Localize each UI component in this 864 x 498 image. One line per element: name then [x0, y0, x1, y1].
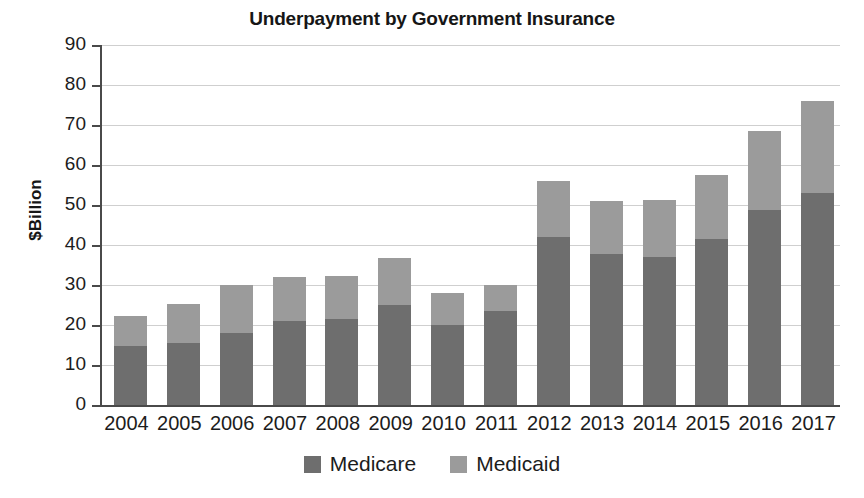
- y-axis-tick: [92, 45, 101, 47]
- y-axis-tick-label: 10: [46, 353, 86, 375]
- bar-segment-medicaid: [220, 285, 253, 333]
- bar-segment-medicare: [643, 257, 676, 405]
- bar-stack: [431, 45, 464, 405]
- legend-swatch-medicare: [304, 456, 321, 473]
- x-axis-tick-label: 2008: [315, 412, 360, 435]
- x-axis-tick-label: 2014: [633, 412, 678, 435]
- gridline: [100, 285, 840, 286]
- bar-stack: [220, 45, 253, 405]
- y-axis-tick: [92, 325, 101, 327]
- x-axis-tick-label: 2016: [738, 412, 783, 435]
- bar-stack: [325, 45, 358, 405]
- y-axis-title: $Billion: [26, 150, 46, 270]
- bar-segment-medicare: [431, 325, 464, 405]
- x-axis-tick-label: 2015: [685, 412, 730, 435]
- bar-stack: [537, 45, 570, 405]
- gridline: [100, 365, 840, 366]
- bar-segment-medicare: [167, 343, 200, 405]
- y-axis-tick-label: 50: [46, 193, 86, 215]
- bar-stack: [378, 45, 411, 405]
- chart-title: Underpayment by Government Insurance: [0, 8, 864, 30]
- x-axis-tick-label: 2009: [368, 412, 413, 435]
- gridline: [100, 165, 840, 166]
- gridline: [100, 85, 840, 86]
- y-axis-tick-label: 70: [46, 113, 86, 135]
- y-axis-tick: [92, 125, 101, 127]
- y-axis-tick: [92, 205, 101, 207]
- x-axis-tick-label: 2004: [104, 412, 149, 435]
- x-axis-tick-label: 2011: [474, 412, 519, 435]
- chart-legend: MedicareMedicaid: [0, 452, 864, 476]
- x-axis-tick-label: 2013: [580, 412, 625, 435]
- gridline: [100, 325, 840, 326]
- legend-item[interactable]: Medicaid: [450, 452, 560, 476]
- y-axis-tick: [92, 365, 101, 367]
- y-axis-line: [100, 45, 102, 406]
- x-axis-tick-label: 2005: [157, 412, 202, 435]
- bar-segment-medicaid: [748, 131, 781, 210]
- plot-area: [100, 45, 840, 405]
- bar-stack: [801, 45, 834, 405]
- y-axis-tick: [92, 85, 101, 87]
- bar-segment-medicaid: [431, 293, 464, 325]
- bar-segment-medicare: [220, 333, 253, 405]
- gridline: [100, 205, 840, 206]
- bar-segment-medicare: [695, 239, 728, 405]
- bar-segment-medicare: [114, 346, 147, 405]
- bar-segment-medicaid: [273, 277, 306, 321]
- y-axis-tick-label: 80: [46, 73, 86, 95]
- bar-segment-medicare: [801, 193, 834, 405]
- bar-segment-medicare: [325, 319, 358, 405]
- bar-segment-medicaid: [801, 101, 834, 193]
- bar-segment-medicare: [590, 254, 623, 405]
- bar-stack: [643, 45, 676, 405]
- y-axis-tick-label: 30: [46, 273, 86, 295]
- legend-label: Medicaid: [476, 452, 560, 476]
- bar-stack: [590, 45, 623, 405]
- bar-stack: [167, 45, 200, 405]
- bar-segment-medicaid: [167, 304, 200, 343]
- x-axis-tick-label: 2017: [791, 412, 836, 435]
- x-axis-line: [100, 405, 840, 407]
- y-axis-tick-label: 90: [46, 33, 86, 55]
- bar-stack: [484, 45, 517, 405]
- bar-segment-medicaid: [114, 316, 147, 346]
- legend-label: Medicare: [330, 452, 416, 476]
- bar-segment-medicaid: [537, 181, 570, 237]
- bar-segment-medicare: [378, 305, 411, 405]
- bar-segment-medicare: [273, 321, 306, 405]
- x-axis-tick-label: 2012: [527, 412, 572, 435]
- bar-stack: [273, 45, 306, 405]
- x-axis-tick-label: 2007: [263, 412, 308, 435]
- y-axis-tick: [92, 405, 101, 407]
- gridline: [100, 245, 840, 246]
- bar-segment-medicare: [484, 311, 517, 405]
- gridline: [100, 125, 840, 126]
- bar-segment-medicaid: [484, 285, 517, 311]
- bar-segment-medicare: [748, 210, 781, 405]
- x-axis-tick-label: 2006: [210, 412, 255, 435]
- bar-stack: [748, 45, 781, 405]
- y-axis-tick-label: 0: [46, 393, 86, 415]
- bar-segment-medicare: [537, 237, 570, 405]
- gridline: [100, 45, 840, 46]
- bar-segment-medicaid: [643, 200, 676, 258]
- legend-item[interactable]: Medicare: [304, 452, 416, 476]
- y-axis-tick: [92, 245, 101, 247]
- y-axis-tick-label: 40: [46, 233, 86, 255]
- y-axis-tick-label: 60: [46, 153, 86, 175]
- bar-segment-medicaid: [695, 175, 728, 239]
- legend-swatch-medicaid: [450, 456, 467, 473]
- y-axis-tick: [92, 285, 101, 287]
- bar-segment-medicaid: [590, 201, 623, 254]
- chart-container: Underpayment by Government Insurance $Bi…: [0, 0, 864, 498]
- bar-stack: [114, 45, 147, 405]
- bar-segment-medicaid: [325, 276, 358, 319]
- bar-stack: [695, 45, 728, 405]
- bar-segment-medicaid: [378, 258, 411, 305]
- y-axis-tick: [92, 165, 101, 167]
- x-axis-tick-label: 2010: [421, 412, 466, 435]
- y-axis-tick-label: 20: [46, 313, 86, 335]
